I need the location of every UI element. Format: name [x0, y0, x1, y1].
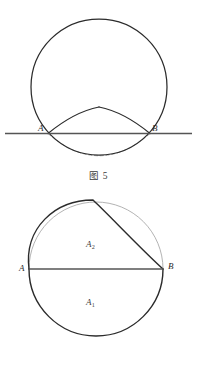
fig6-point-a-label: A: [19, 264, 25, 273]
fig5-circle: [31, 19, 167, 155]
figure-6-drawing: [0, 190, 197, 377]
fig6-region-a1-label: A1: [86, 298, 95, 307]
figure-5: A B 图 5: [0, 0, 197, 190]
fig6-region-a2-sub: 2: [92, 243, 95, 250]
fig5-left-inner-arc: [48, 107, 99, 134]
fig6-region-a1-sub: 1: [92, 301, 95, 308]
fig6-region-a1-base: A: [86, 297, 92, 307]
fig5-point-a-label: A: [38, 124, 44, 133]
fig6-faint-reference-arc: [29, 202, 163, 269]
fig6-lower-bold-arc: [29, 269, 163, 336]
fig6-region-a2-label: A2: [86, 240, 95, 249]
fig5-point-b-label: B: [152, 124, 158, 133]
fig5-right-inner-arc: [99, 107, 150, 134]
figure-5-caption: 图 5: [0, 168, 197, 182]
fig6-upper-bold-curve: [28, 200, 163, 269]
figure-5-drawing: [0, 0, 197, 190]
figure-6: 图 6: [0, 190, 197, 377]
fig6-region-a2-base: A: [86, 239, 92, 249]
figure-page: A B 图 5 图 6 A B A2 A1: [0, 0, 197, 377]
fig6-point-b-label: B: [168, 262, 174, 271]
